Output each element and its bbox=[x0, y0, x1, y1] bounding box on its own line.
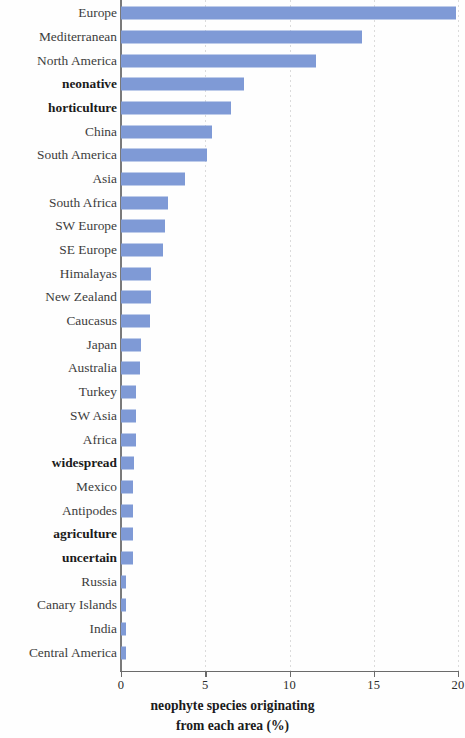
bar bbox=[121, 457, 134, 470]
bar-row: Europe bbox=[0, 2, 465, 26]
bar bbox=[121, 54, 316, 67]
x-tick-label: 20 bbox=[452, 678, 465, 693]
bar-row: SW Asia bbox=[0, 404, 465, 428]
x-tick-label: 0 bbox=[118, 678, 124, 693]
bar bbox=[121, 528, 133, 541]
bar-row: Canary Islands bbox=[0, 594, 465, 618]
bar bbox=[121, 622, 126, 635]
bar-row: South Africa bbox=[0, 191, 465, 215]
category-label: neonative bbox=[62, 78, 117, 91]
category-label: Himalayas bbox=[60, 267, 117, 280]
bar-row: Africa bbox=[0, 428, 465, 452]
bar-row: North America bbox=[0, 49, 465, 73]
bar bbox=[121, 102, 231, 115]
bar-row: SW Europe bbox=[0, 215, 465, 239]
category-label: SE Europe bbox=[59, 243, 117, 256]
tick-mark-10 bbox=[290, 671, 291, 677]
bar bbox=[121, 149, 207, 162]
category-label: SW Asia bbox=[70, 409, 117, 422]
x-tick-label: 10 bbox=[283, 678, 296, 693]
bar bbox=[121, 244, 163, 257]
bar-chart: EuropeMediterraneanNorth Americaneonativ… bbox=[0, 0, 465, 738]
bar-row: agriculture bbox=[0, 522, 465, 546]
bar-row: Antipodes bbox=[0, 499, 465, 523]
bar bbox=[121, 575, 126, 588]
bar bbox=[121, 7, 456, 20]
bar bbox=[121, 646, 126, 659]
bar bbox=[121, 362, 140, 375]
x-axis-title-line1: neophyte species originating bbox=[151, 698, 315, 713]
bar-row: Japan bbox=[0, 333, 465, 357]
tick-mark-5 bbox=[205, 671, 206, 677]
bar-row: Central America bbox=[0, 641, 465, 665]
category-label: agriculture bbox=[53, 528, 117, 541]
bar-row: Australia bbox=[0, 357, 465, 381]
bar bbox=[121, 315, 150, 328]
bar-row: Mediterranean bbox=[0, 25, 465, 49]
bar-row: India bbox=[0, 617, 465, 641]
category-label: Canary Islands bbox=[37, 599, 117, 612]
category-label: New Zealand bbox=[45, 291, 117, 304]
bar bbox=[121, 480, 133, 493]
bar-row: China bbox=[0, 120, 465, 144]
bar bbox=[121, 291, 151, 304]
category-label: Antipodes bbox=[62, 504, 117, 517]
bar-row: Turkey bbox=[0, 380, 465, 404]
category-label: Mediterranean bbox=[39, 30, 117, 43]
tick-mark-15 bbox=[374, 671, 375, 677]
bar bbox=[121, 220, 165, 233]
bar-row: SE Europe bbox=[0, 238, 465, 262]
bar-row: Mexico bbox=[0, 475, 465, 499]
bar bbox=[121, 599, 126, 612]
x-tick-label: 5 bbox=[202, 678, 208, 693]
bar bbox=[121, 125, 212, 138]
bar-row: Russia bbox=[0, 570, 465, 594]
category-label: horticulture bbox=[48, 101, 117, 114]
bar bbox=[121, 433, 136, 446]
x-axis-title: neophyte species originating from each a… bbox=[0, 696, 465, 735]
category-label: widespread bbox=[52, 457, 117, 470]
category-label: uncertain bbox=[62, 551, 117, 564]
category-label: China bbox=[85, 125, 117, 138]
bar-row: South America bbox=[0, 144, 465, 168]
bar-row: Asia bbox=[0, 167, 465, 191]
bar bbox=[121, 551, 133, 564]
category-label: SW Europe bbox=[55, 220, 117, 233]
category-label: South Africa bbox=[49, 196, 117, 209]
category-label: Africa bbox=[83, 433, 117, 446]
bar bbox=[121, 173, 185, 186]
bar bbox=[121, 30, 362, 43]
bar bbox=[121, 386, 136, 399]
bar-row: New Zealand bbox=[0, 286, 465, 310]
bar bbox=[121, 267, 151, 280]
category-label: Caucasus bbox=[66, 314, 117, 327]
category-label: Australia bbox=[68, 362, 117, 375]
category-label: Mexico bbox=[76, 480, 117, 493]
category-label: India bbox=[89, 622, 117, 635]
bar-row: uncertain bbox=[0, 546, 465, 570]
category-label: South America bbox=[37, 149, 117, 162]
category-label: Japan bbox=[87, 338, 118, 351]
bar-row: horticulture bbox=[0, 96, 465, 120]
category-label: Central America bbox=[29, 646, 117, 659]
category-label: North America bbox=[37, 54, 117, 67]
x-tick-label: 15 bbox=[367, 678, 380, 693]
bar bbox=[121, 78, 244, 91]
category-label: Russia bbox=[81, 575, 117, 588]
bar-row: Himalayas bbox=[0, 262, 465, 286]
tick-mark-0 bbox=[121, 671, 122, 677]
bar bbox=[121, 338, 141, 351]
category-label: Asia bbox=[92, 172, 117, 185]
x-axis-title-line2: from each area (%) bbox=[0, 716, 465, 736]
bar bbox=[121, 504, 133, 517]
bar-row: neonative bbox=[0, 73, 465, 97]
bar-row: Caucasus bbox=[0, 309, 465, 333]
category-label: Europe bbox=[78, 7, 117, 20]
category-label: Turkey bbox=[79, 385, 117, 398]
bar-row: widespread bbox=[0, 451, 465, 475]
bar bbox=[121, 196, 168, 209]
tick-mark-20 bbox=[458, 671, 459, 677]
bar bbox=[121, 409, 136, 422]
